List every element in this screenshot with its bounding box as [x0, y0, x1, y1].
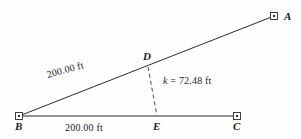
point-marker-a [271, 13, 278, 20]
point-label-a: A [284, 11, 291, 22]
point-label-c: C [233, 121, 240, 132]
point-label-b: B [15, 121, 22, 132]
dimension-label-be: 200.00 ft [65, 123, 103, 133]
point-marker-b [16, 113, 23, 120]
dimension-label-k: k = 72.48 ft [163, 76, 212, 86]
point-label-d: D [143, 51, 151, 62]
point-label-e: E [153, 121, 160, 132]
offset-value: 72.48 ft [179, 75, 212, 86]
segment-de-dashed [148, 67, 157, 116]
survey-diagram: A B C D E 200.00 ft 200.00 ft k = 72.48 … [0, 0, 301, 139]
point-marker-c [234, 113, 241, 120]
